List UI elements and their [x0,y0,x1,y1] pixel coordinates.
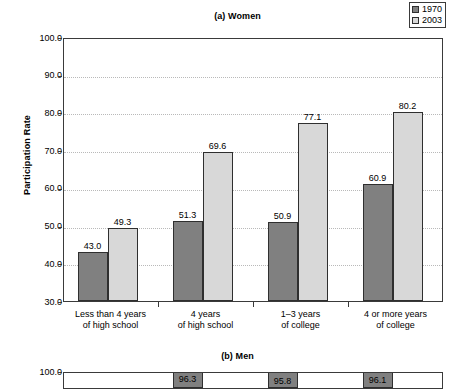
bar-2003-group-3 [393,112,423,301]
figure-participation-rate: 1970 2003 (a) Women Participation Rate 3… [0,0,449,389]
x-category-line: of college [338,320,449,331]
panel-men: (b) Men 100.0 96.395.896.1 [0,345,449,389]
plot-area-men: 96.395.896.1 [63,372,443,389]
y-tick-label: 100.0 [20,368,62,377]
bar-value-label: 96.3 [165,375,211,384]
y-tick-mark [58,372,62,373]
bar-1970-group-3 [363,184,393,301]
bar-1970-group-0 [78,252,108,301]
y-tick-label: 50.0 [20,222,62,231]
panel-women-title: (a) Women [63,11,412,21]
panel-women: (a) Women Participation Rate 30.040.050.… [0,0,449,345]
x-tick-mark [348,302,349,307]
bar-value-label: 80.2 [385,102,431,111]
bar-value-label: 49.3 [100,218,146,227]
x-tick-mark [158,302,159,307]
y-tick-mark [58,227,62,228]
y-axis-men: 100.0 [14,372,62,389]
bar-2003-group-0 [108,228,138,301]
bar-value-label: 77.1 [290,113,336,122]
y-tick-label: 60.0 [20,184,62,193]
x-category-line: 4 or more years [338,309,449,320]
y-axis-women: Participation Rate 30.040.050.060.070.08… [14,38,62,302]
bar-1970-group-1 [173,221,203,301]
bar-value-label: 96.1 [355,376,401,385]
panel-men-title: (b) Men [63,351,412,361]
y-tick-mark [58,189,62,190]
x-tick-mark [253,302,254,307]
bar-value-label: 95.8 [260,377,306,386]
y-tick-label: 70.0 [20,147,62,156]
y-tick-mark [58,76,62,77]
y-tick-mark [58,264,62,265]
y-tick-mark [58,302,62,303]
y-tick-label: 80.0 [20,109,62,118]
gridline [64,152,442,153]
plot-area-women: 43.049.351.369.650.977.160.980.2 [63,38,443,302]
bar-2003-group-2 [298,123,328,301]
x-category-label-3: 4 or more yearsof college [338,309,449,331]
gridline [64,77,442,78]
x-axis-women: Less than 4 yearsof high school4 yearsof… [63,302,443,342]
y-tick-mark [58,151,62,152]
y-tick-label: 40.0 [20,260,62,269]
y-tick-mark [58,113,62,114]
y-tick-label: 90.0 [20,71,62,80]
y-tick-mark [58,38,62,39]
bar-1970-group-2 [268,222,298,301]
bar-value-label: 69.6 [195,142,241,151]
y-tick-label: 30.0 [20,298,62,307]
y-tick-label: 100.0 [20,34,62,43]
gridline [64,114,442,115]
bar-2003-group-1 [203,152,233,301]
